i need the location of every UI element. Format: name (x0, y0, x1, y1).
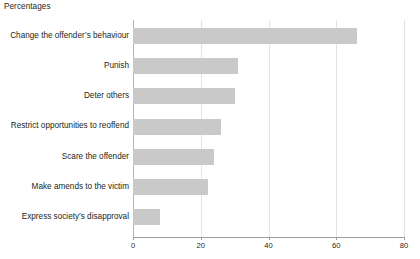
tick-label-80: 80 (400, 241, 408, 250)
bar-chart: Percentages 020406080 Change the offende… (0, 0, 420, 259)
category-label: Deter others (4, 91, 133, 101)
category-label: Scare the offender (4, 152, 133, 162)
category-label: Change the offender’s behaviour (4, 31, 133, 41)
tick-mark-80 (404, 237, 405, 240)
bar (133, 88, 235, 104)
tick-mark-0 (133, 237, 134, 240)
tick-mark-20 (201, 237, 202, 240)
plot-area (133, 20, 404, 237)
gridline-60 (336, 20, 337, 237)
bar (133, 28, 357, 44)
tick-mark-40 (269, 237, 270, 240)
bar (133, 58, 238, 74)
tick-mark-60 (336, 237, 337, 240)
tick-label-20: 20 (197, 241, 205, 250)
category-label: Restrict opportunities to reoffend (4, 121, 133, 131)
category-label: Express society’s disapproval (4, 212, 133, 222)
bar (133, 149, 214, 165)
gridline-80 (404, 20, 405, 237)
tick-label-40: 40 (264, 241, 272, 250)
tick-label-60: 60 (332, 241, 340, 250)
category-label: Punish (4, 61, 133, 71)
bar (133, 179, 208, 195)
category-label: Make amends to the victim (4, 182, 133, 192)
category-labels: Change the offender’s behaviourPunishDet… (0, 0, 133, 259)
bar (133, 119, 221, 135)
bar (133, 209, 160, 225)
gridline-40 (269, 20, 270, 237)
